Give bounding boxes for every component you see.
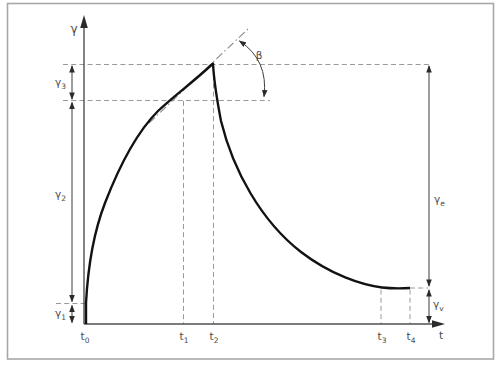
x-axis-arrowhead [432,320,445,328]
t3-label: t3 [378,330,387,345]
gamma3-label: γ3 [55,76,66,91]
x-axis-label: t [439,329,443,341]
creep-recovery-curve [86,64,410,325]
gamma1-label: γ1 [55,307,66,322]
figure-border [8,4,494,360]
t0-label: t0 [81,330,90,345]
creep-diagram-figure: γ t β γ3 γ2 γ1 γe γv t0 t1 t2 t3 t4 [0,0,499,371]
t1-label: t1 [180,330,189,345]
gamma2-label: γ2 [55,188,66,203]
t2-label: t2 [210,330,219,345]
beta-label: β [256,49,263,61]
gamma-v-label: γv [433,298,444,313]
diagram-canvas: γ t β γ3 γ2 γ1 γe γv t0 t1 t2 t3 t4 [0,0,499,371]
t4-label: t4 [407,330,416,345]
y-axis-label: γ [70,22,77,36]
gamma-e-label: γe [434,193,445,208]
y-axis-arrowhead [80,15,88,28]
